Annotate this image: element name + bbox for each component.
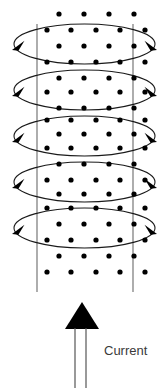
field-dot-r18-c2 bbox=[68, 269, 73, 274]
field-dot-r4-c4 bbox=[117, 59, 122, 64]
field-dot-r5-c4 bbox=[131, 75, 136, 80]
field-dot-r6-c1 bbox=[44, 89, 49, 94]
field-dot-r6-c5 bbox=[142, 89, 147, 94]
field-dot-r17-c2 bbox=[81, 253, 86, 258]
field-dot-r17-c1 bbox=[56, 253, 61, 258]
field-dot-r16-c2 bbox=[68, 237, 73, 242]
field-dot-r11-c1 bbox=[56, 161, 61, 166]
field-dot-r4-c3 bbox=[93, 59, 98, 64]
field-dot-r7-c4 bbox=[131, 105, 136, 110]
field-dot-r3-c3 bbox=[106, 43, 111, 48]
field-dot-r12-c4 bbox=[117, 177, 122, 182]
field-dot-r15-c1 bbox=[56, 221, 61, 226]
field-dot-r16-c1 bbox=[44, 237, 49, 242]
field-dot-r10-c5 bbox=[142, 145, 147, 150]
field-dot-r8-c2 bbox=[68, 117, 73, 122]
field-dot-r1-c3 bbox=[106, 11, 111, 16]
field-dot-r9-c1 bbox=[56, 131, 61, 136]
field-dot-r15-c2 bbox=[81, 221, 86, 226]
field-dot-r7-c2 bbox=[81, 105, 86, 110]
field-dot-r1-c2 bbox=[81, 11, 86, 16]
field-dot-r2-c3 bbox=[93, 27, 98, 32]
field-dot-r2-c5 bbox=[142, 27, 147, 32]
field-dot-r18-c3 bbox=[93, 269, 98, 274]
field-dot-r8-c3 bbox=[93, 117, 98, 122]
field-dot-r3-c1 bbox=[56, 43, 61, 48]
field-dot-r8-c5 bbox=[142, 117, 147, 122]
field-dot-r16-c5 bbox=[142, 237, 147, 242]
field-dot-r12-c2 bbox=[68, 177, 73, 182]
field-dot-r12-c1 bbox=[44, 177, 49, 182]
field-dot-r14-c1 bbox=[44, 205, 49, 210]
field-dot-r1-c4 bbox=[131, 11, 136, 16]
field-dot-r10-c3 bbox=[93, 145, 98, 150]
field-dot-r9-c2 bbox=[81, 131, 86, 136]
field-dot-r7-c3 bbox=[106, 105, 111, 110]
field-dot-r6-c3 bbox=[93, 89, 98, 94]
field-dot-r17-c3 bbox=[106, 253, 111, 258]
field-dot-r14-c2 bbox=[68, 205, 73, 210]
field-dot-r9-c4 bbox=[131, 131, 136, 136]
field-dot-r7-c1 bbox=[56, 105, 61, 110]
field-dot-r2-c2 bbox=[68, 27, 73, 32]
field-dot-r15-c4 bbox=[131, 221, 136, 226]
field-dot-r3-c4 bbox=[131, 43, 136, 48]
field-dot-r10-c1 bbox=[44, 145, 49, 150]
field-dot-r11-c2 bbox=[81, 161, 86, 166]
field-dot-r8-c4 bbox=[117, 117, 122, 122]
field-dot-r12-c5 bbox=[142, 177, 147, 182]
field-dot-r16-c3 bbox=[93, 237, 98, 242]
field-dot-r6-c2 bbox=[68, 89, 73, 94]
current-label: Current bbox=[104, 343, 148, 358]
field-dot-r16-c4 bbox=[117, 237, 122, 242]
field-dot-r13-c3 bbox=[106, 191, 111, 196]
field-dot-r11-c3 bbox=[106, 161, 111, 166]
field-dot-r13-c2 bbox=[81, 191, 86, 196]
field-dot-r18-c5 bbox=[142, 269, 147, 274]
field-dot-r18-c4 bbox=[117, 269, 122, 274]
field-dot-r18-c1 bbox=[44, 269, 49, 274]
field-dot-r4-c5 bbox=[142, 59, 147, 64]
field-dot-r15-c3 bbox=[106, 221, 111, 226]
field-dot-r6-c4 bbox=[117, 89, 122, 94]
field-dot-r10-c2 bbox=[68, 145, 73, 150]
field-dot-r10-c4 bbox=[117, 145, 122, 150]
solenoid-diagram-canvas: Current bbox=[0, 0, 164, 388]
field-dot-r17-c4 bbox=[131, 253, 136, 258]
field-dot-r13-c4 bbox=[131, 191, 136, 196]
field-dot-r14-c5 bbox=[142, 205, 147, 210]
solenoid-figure: Current bbox=[0, 0, 164, 388]
field-dot-r5-c3 bbox=[106, 75, 111, 80]
field-dot-r9-c3 bbox=[106, 131, 111, 136]
field-dot-r5-c2 bbox=[81, 75, 86, 80]
field-dot-r13-c1 bbox=[56, 191, 61, 196]
field-dot-r14-c3 bbox=[93, 205, 98, 210]
field-dot-r3-c2 bbox=[81, 43, 86, 48]
field-dot-r12-c3 bbox=[93, 177, 98, 182]
field-dot-r4-c2 bbox=[68, 59, 73, 64]
field-dot-r14-c4 bbox=[117, 205, 122, 210]
field-dot-r5-c1 bbox=[56, 75, 61, 80]
field-dot-r1-c1 bbox=[56, 11, 61, 16]
field-dot-r11-c4 bbox=[131, 161, 136, 166]
field-dot-r4-c1 bbox=[44, 59, 49, 64]
field-dot-r2-c1 bbox=[44, 27, 49, 32]
field-dot-r2-c4 bbox=[117, 27, 122, 32]
field-dot-r8-c1 bbox=[44, 117, 49, 122]
